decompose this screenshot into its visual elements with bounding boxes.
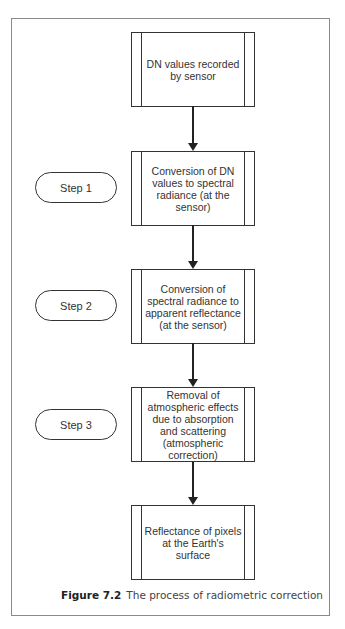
process-box-dn-values: DN values recorded by sensor xyxy=(131,32,255,107)
process-box-label: DN values recorded by sensor xyxy=(132,58,254,82)
arrow-head-icon xyxy=(188,497,198,505)
step-1-terminator: Step 1 xyxy=(35,172,117,203)
figure-number: Figure 7.2 xyxy=(61,589,121,601)
figure-caption: Figure 7.2The process of radiometric cor… xyxy=(61,589,323,601)
step-3-terminator: Step 3 xyxy=(35,409,117,440)
step-label: Step 3 xyxy=(60,419,92,431)
process-box-spectral-radiance: Conversion of DN values to spectral radi… xyxy=(131,151,255,226)
arrow-head-icon xyxy=(188,261,198,269)
arrow-head-icon xyxy=(188,379,198,387)
step-2-terminator: Step 2 xyxy=(35,290,117,321)
process-box-label: Conversion of DN values to spectral radi… xyxy=(132,165,254,213)
flow-arrow xyxy=(192,106,194,144)
process-box-label: Conversion of spectral radiance to appar… xyxy=(132,283,254,331)
process-box-label: Reflectance of pixels at the Earth's sur… xyxy=(132,525,254,561)
arrow-head-icon xyxy=(188,143,198,151)
process-box-label: Removal of atmospheric effects due to ab… xyxy=(132,389,254,461)
flow-arrow xyxy=(192,462,194,498)
flow-arrow xyxy=(192,343,194,380)
process-box-atmospheric-correction: Removal of atmospheric effects due to ab… xyxy=(131,387,255,462)
step-label: Step 1 xyxy=(60,182,92,194)
figure-caption-text: The process of radiometric correction xyxy=(126,589,323,601)
step-label: Step 2 xyxy=(60,300,92,312)
process-box-surface-reflectance: Reflectance of pixels at the Earth's sur… xyxy=(131,505,255,580)
flow-arrow xyxy=(192,225,194,262)
process-box-apparent-reflectance: Conversion of spectral radiance to appar… xyxy=(131,269,255,344)
